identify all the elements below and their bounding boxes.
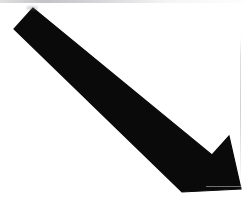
image-canvas: A thick solid black arrow angled from th…	[0, 0, 246, 219]
arrow-graphic: A thick solid black arrow angled from th…	[0, 0, 246, 219]
arrow-down-right-icon	[14, 8, 241, 192]
